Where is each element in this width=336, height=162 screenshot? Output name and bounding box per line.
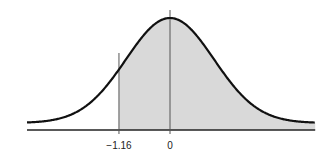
shaded-area [119,18,315,130]
normal-distribution-chart: −1.16 0 [0,0,336,162]
tick-label-neg-1-16: −1.16 [106,140,132,151]
tick-label-zero: 0 [167,140,173,151]
